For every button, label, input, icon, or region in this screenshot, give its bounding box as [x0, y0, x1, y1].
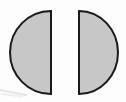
semicircles-drawing: Two gray semicircles facing apart	[0, 0, 126, 102]
figure-canvas: Two gray semicircles facing apart Two gr…	[0, 0, 126, 102]
